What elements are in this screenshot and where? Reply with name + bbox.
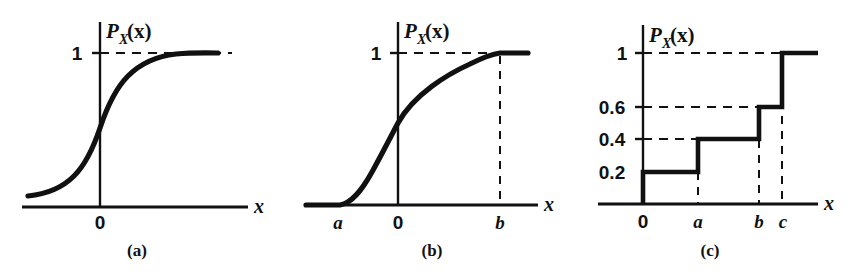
panel-b-caption: (b) (422, 241, 443, 260)
panel-c-x-tick-label-c: c (779, 211, 788, 232)
panel-a-x-axis-label: x (253, 195, 264, 217)
panel-c-y-tick-label-04: 0.4 (599, 129, 626, 150)
panel-b-cdf-curve (306, 53, 528, 205)
panel-a-y-tick-label-1: 1 (72, 43, 83, 64)
panel-b-x-tick-label-b: b (495, 212, 505, 233)
panel-a-caption: (a) (127, 241, 147, 260)
panel-c-y-axis-label-arg: (x) (670, 23, 695, 47)
panel-c-x-axis-label: x (823, 192, 834, 214)
panel-c-y-tick-label-06: 0.6 (599, 97, 625, 118)
panel-b-y-axis-label-arg: (x) (425, 19, 450, 43)
panel-a-cdf-curve (28, 53, 218, 196)
figure-root: P X (x) 1 0 x (a) P X (x) 1 a 0 (0, 0, 859, 278)
panel-c-x-tick-label-b: b (754, 211, 764, 232)
panel-c-x-tick-label-a: a (693, 211, 703, 232)
panel-b-y-axis-label-base: P (403, 19, 417, 43)
panel-b-x-axis-label: x (543, 193, 554, 215)
panel-b: P X (x) 1 a 0 b x (b) (290, 0, 580, 278)
panel-b-x-tick-label-a: a (333, 212, 343, 233)
panel-a: P X (x) 1 0 x (a) (0, 0, 290, 278)
panel-c-y-tick-label-1: 1 (617, 43, 628, 64)
panel-c-cdf-staircase (643, 53, 818, 204)
panel-c-caption: (c) (701, 241, 720, 260)
panel-c-x-tick-label-0: 0 (638, 211, 649, 232)
panel-a-y-axis-label-arg: (x) (127, 19, 152, 43)
panel-b-x-tick-label-0: 0 (393, 212, 404, 233)
panel-c-y-axis-label-base: P (648, 23, 662, 47)
panel-b-y-tick-label-1: 1 (371, 43, 382, 64)
panel-c-y-tick-label-02: 0.2 (599, 162, 625, 183)
panel-a-y-axis-label-base: P (105, 19, 119, 43)
panel-a-x-tick-label-0: 0 (95, 212, 106, 233)
panel-c: P X (x) 1 0.6 0.4 0.2 0 a b c x (c) (570, 0, 859, 278)
